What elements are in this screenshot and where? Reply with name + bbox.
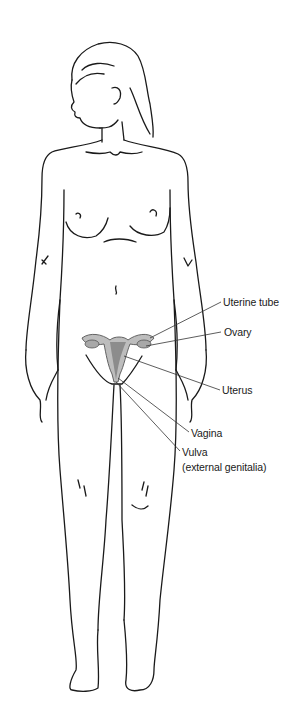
label-vulva: Vulva bbox=[182, 446, 207, 459]
label-uterus: Uterus bbox=[222, 384, 252, 397]
label-uterine-tube: Uterine tube bbox=[223, 296, 279, 309]
label-vulva-subtitle: (external genitalia) bbox=[182, 461, 266, 474]
female-anatomy-illustration bbox=[0, 0, 305, 723]
reproductive-organs bbox=[82, 334, 154, 382]
torso-outline bbox=[26, 140, 102, 350]
label-ovary: Ovary bbox=[224, 326, 252, 339]
label-vagina: Vagina bbox=[191, 427, 222, 440]
head-outline bbox=[72, 43, 154, 138]
